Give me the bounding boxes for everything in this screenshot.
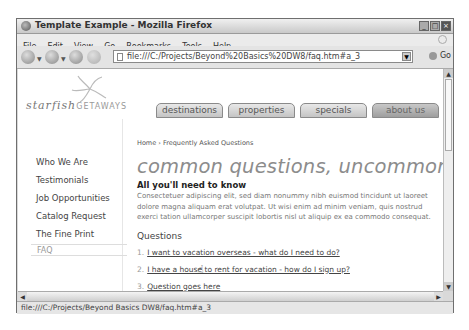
site-logo[interactable]: starfishGETAWAYS (26, 94, 127, 113)
tab-specials[interactable]: specials (300, 103, 367, 118)
page-content: starfishGETAWAYS destinations properties… (18, 69, 443, 291)
breadcrumb: Home › Frequently Asked Questions (137, 139, 437, 147)
question-link-2[interactable]: I have a house to rent for vacation - ho… (147, 265, 350, 274)
main-content: Home › Frequently Asked Questions common… (137, 139, 437, 291)
scroll-thumb[interactable] (445, 79, 452, 151)
sidebar-item-job-opportunities[interactable]: Job Opportunities (36, 192, 110, 210)
question-link-3[interactable]: Question goes here (147, 282, 220, 291)
browser-window: Template Example - Mozilla Firefox _ □ ×… (16, 18, 454, 313)
sidebar-item-who-we-are[interactable]: Who We Are (36, 156, 110, 174)
scroll-up-icon[interactable]: ▲ (444, 69, 453, 78)
logo-script-text: starfish (26, 99, 76, 112)
question-link-1[interactable]: I want to vacation overseas - what do I … (147, 248, 340, 257)
navigation-toolbar: ▼ ▼ file:///C:/Projects/Beyond%20Basics%… (17, 46, 453, 69)
question-item: 2.I have a house to rent for vacation - … (137, 264, 437, 281)
questions-list: 1.I want to vacation overseas - what do … (137, 247, 437, 292)
page-title: common questions, uncommon answers (137, 155, 437, 178)
sidebar-item-faq[interactable]: FAQ (31, 244, 127, 256)
section-subheading: All you'll need to know (137, 180, 437, 190)
sidebar-item-catalog-request[interactable]: Catalog Request (36, 210, 110, 228)
close-button[interactable]: × (441, 21, 451, 31)
intro-paragraph: Consectetuer adipiscing elit, sed diam n… (137, 191, 442, 223)
go-button[interactable]: Go (429, 51, 451, 60)
sidebar-divider (122, 119, 123, 291)
back-dropdown-icon[interactable]: ▼ (37, 55, 42, 62)
url-text[interactable]: file:///C:/Projects/Beyond%20Basics%20DW… (127, 52, 360, 61)
vertical-scrollbar[interactable]: ▲ ▼ (443, 69, 453, 291)
minimize-button[interactable]: _ (419, 21, 429, 31)
forward-arrow-icon[interactable] (45, 50, 59, 64)
starfish-icon (70, 74, 110, 104)
question-item: 1.I want to vacation overseas - what do … (137, 247, 437, 264)
page-icon (117, 53, 123, 61)
window-title: Template Example - Mozilla Firefox (35, 20, 212, 30)
maximize-button[interactable]: □ (430, 21, 440, 31)
reload-icon[interactable] (69, 50, 83, 64)
questions-heading: Questions (137, 231, 437, 241)
horizontal-scrollbar[interactable]: ◀ ▶ (18, 291, 443, 301)
url-dropdown-icon[interactable]: ▼ (402, 52, 411, 61)
tab-destinations[interactable]: destinations (156, 103, 223, 118)
status-text: file:///C:/Projects/Beyond Basics DW8/fa… (21, 303, 211, 312)
hand-cursor-icon: ☝ (197, 263, 204, 276)
tab-properties[interactable]: properties (228, 103, 295, 118)
scroll-left-icon[interactable]: ◀ (18, 292, 27, 301)
forward-dropdown-icon[interactable]: ▼ (61, 55, 66, 62)
scroll-right-icon[interactable]: ▶ (434, 292, 443, 301)
title-bar: Template Example - Mozilla Firefox _ □ × (17, 19, 453, 34)
firefox-icon (21, 21, 31, 31)
question-item: 3.Question goes here (137, 281, 437, 292)
site-nav-tabs: destinations properties specials about u… (156, 103, 443, 118)
back-arrow-icon[interactable] (21, 50, 35, 64)
go-icon (429, 52, 437, 60)
throbber-icon (438, 35, 447, 44)
sidebar: Who We Are Testimonials Job Opportunitie… (36, 156, 110, 246)
menu-bar: File Edit View Go Bookmarks Tools Help (17, 34, 453, 46)
tab-about-us[interactable]: about us (372, 103, 439, 118)
status-bar: file:///C:/Projects/Beyond Basics DW8/fa… (17, 301, 453, 314)
sidebar-item-testimonials[interactable]: Testimonials (36, 174, 110, 192)
url-bar[interactable]: file:///C:/Projects/Beyond%20Basics%20DW… (113, 50, 413, 63)
scroll-down-icon[interactable]: ▼ (444, 282, 453, 291)
stop-icon[interactable] (87, 50, 101, 64)
